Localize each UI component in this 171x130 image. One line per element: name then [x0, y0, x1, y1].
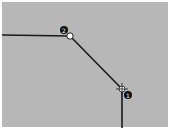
path-diagram: 2 1: [0, 0, 171, 130]
anchor-badge-2: 2: [60, 26, 68, 34]
anchor-badge-1: 1: [124, 91, 132, 99]
bezier-path[interactable]: [2, 35, 122, 128]
badge-label-2: 2: [62, 27, 66, 34]
badge-label-1: 1: [126, 92, 130, 99]
anchor-point-2[interactable]: [67, 33, 73, 39]
